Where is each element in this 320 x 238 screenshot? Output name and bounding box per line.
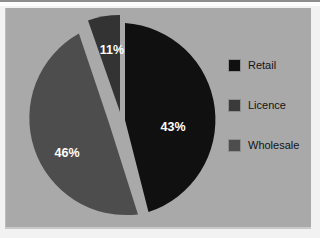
legend-item-licence[interactable]: Licence <box>228 98 314 112</box>
color-swatch-icon <box>228 59 241 72</box>
pie-chart: 43% 46% 11% <box>5 8 230 228</box>
pie-label-licence: 46% <box>54 146 79 160</box>
color-swatch-icon <box>228 99 241 112</box>
screenshot-root: 43% 46% 11% Retail Licence Wholesale <box>0 0 320 238</box>
color-swatch-icon <box>228 139 241 152</box>
pie-slice-retail[interactable] <box>125 23 215 212</box>
legend: Retail Licence Wholesale <box>228 58 314 178</box>
legend-label-licence: Licence <box>248 99 286 112</box>
pie-slice-licence[interactable] <box>29 34 138 216</box>
pie-label-retail: 43% <box>160 120 185 134</box>
pie-chart-svg: 43% 46% 11% <box>5 8 230 228</box>
pie-label-wholesale: 11% <box>100 43 124 57</box>
legend-item-wholesale[interactable]: Wholesale <box>228 138 314 152</box>
legend-label-wholesale: Wholesale <box>248 139 299 152</box>
legend-item-retail[interactable]: Retail <box>228 58 314 72</box>
legend-label-retail: Retail <box>248 59 276 72</box>
